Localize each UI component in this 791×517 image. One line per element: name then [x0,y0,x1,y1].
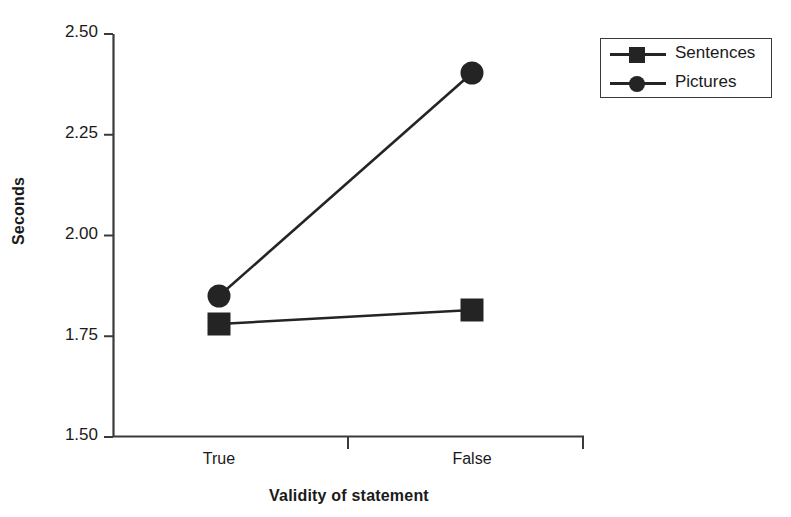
legend-label-pictures: Pictures [675,72,736,92]
y-tick-label-2.50: 2.50 [18,22,98,42]
y-tick-label-2.00: 2.00 [18,224,98,244]
y-tick-label-1.75: 1.75 [18,325,98,345]
x-axis-title: Validity of statement [113,487,585,505]
y-axis-title: Seconds [10,151,28,271]
legend-entry-sentences: Sentences [601,39,773,69]
legend-label-sentences: Sentences [675,43,755,63]
data-point-pictures-false [461,62,484,85]
legend: Sentences Pictures [600,38,772,98]
x-tick-label-true: True [149,450,289,468]
y-tick-label-1.50: 1.50 [18,425,98,445]
circle-marker-icon [610,68,666,98]
legend-entry-pictures: Pictures [601,68,773,98]
series-line-sentences [219,310,472,324]
data-point-sentences-true [208,313,231,336]
data-point-sentences-false [461,299,484,322]
line-chart-figure: 2.50 2.25 2.00 1.75 1.50 True False Seco… [0,0,791,517]
y-tick-label-2.25: 2.25 [18,123,98,143]
data-point-pictures-true [208,285,231,308]
square-marker-icon [610,39,666,69]
x-tick-label-false: False [402,450,542,468]
series-line-pictures [219,73,472,296]
